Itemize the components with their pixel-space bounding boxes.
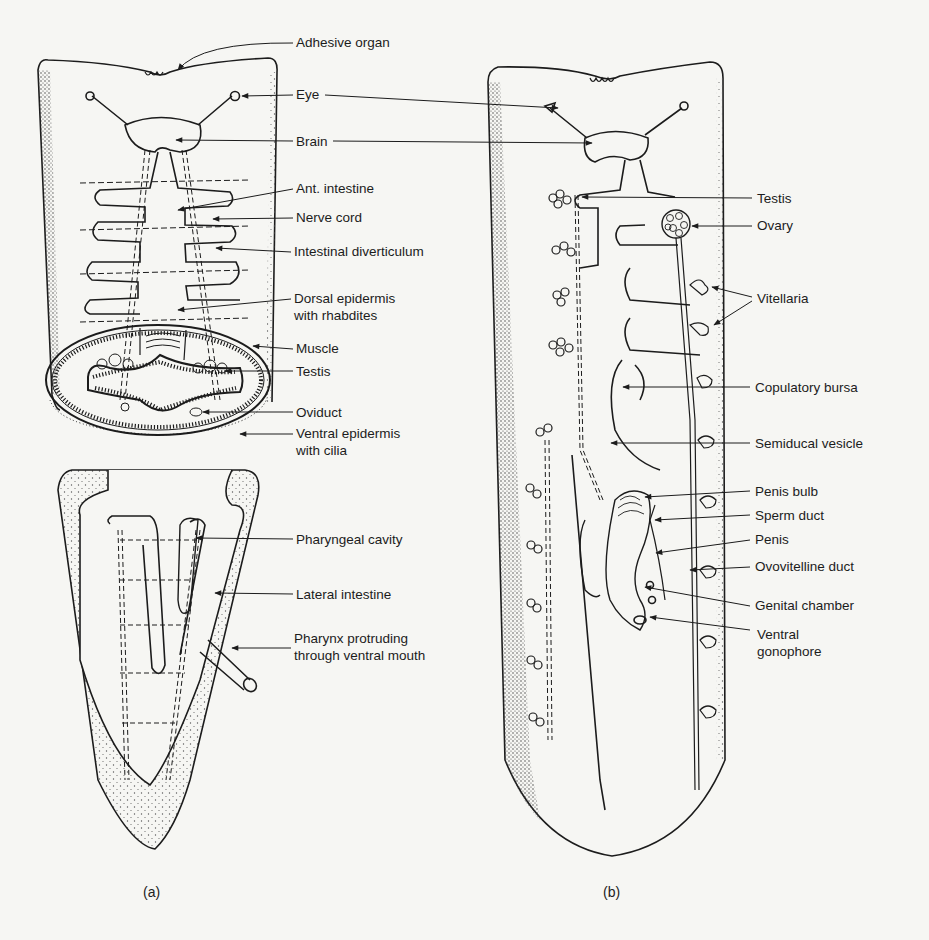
label-penis: Penis [755,531,789,548]
label-ovary: Ovary [757,217,793,234]
label-pharynx-protruding: Pharynx protruding through ventral mouth [294,630,425,664]
label-ovovitelline-duct: Ovovitelline duct [755,558,854,575]
label-testis-b: Testis [757,190,792,207]
panel-a-posterior [58,470,259,849]
panel-b-caption: (b) [603,884,620,900]
label-oviduct: Oviduct [296,404,342,421]
leader-lines [176,43,752,648]
anatomy-drawing [0,0,929,940]
cross-section [46,325,270,435]
label-ventral-epidermis: Ventral epidermis with cilia [296,425,400,459]
label-nerve-cord: Nerve cord [296,209,362,226]
label-lateral-intestine: Lateral intestine [296,586,391,603]
label-genital-chamber: Genital chamber [755,597,854,614]
label-brain: Brain [296,133,328,150]
label-copulatory-bursa: Copulatory bursa [755,379,858,396]
label-ventral-gonophore: Ventral gonophore [757,626,822,660]
label-penis-bulb: Penis bulb [755,483,818,500]
label-muscle: Muscle [296,340,339,357]
label-dorsal-epidermis: Dorsal epidermis with rhabdites [294,290,395,324]
label-eye: Eye [296,86,319,103]
label-pharyngeal-cavity: Pharyngeal cavity [296,531,403,548]
label-sperm-duct: Sperm duct [755,507,824,524]
planarian-anatomy-figure: Adhesive organ Eye Brain Ant. intestine … [0,0,929,940]
label-intestinal-diverticulum: Intestinal diverticulum [294,243,424,260]
label-semiducal-vesicle: Semiducal vesicle [755,435,863,452]
label-testis-a: Testis [296,363,331,380]
panel-b-body [488,62,725,856]
panel-a-caption: (a) [143,884,160,900]
label-vitellaria: Vitellaria [757,290,809,307]
label-adhesive-organ: Adhesive organ [296,34,390,51]
testes-cluster [526,190,575,726]
label-ant-intestine: Ant. intestine [296,180,374,197]
vitellaria [690,280,716,718]
